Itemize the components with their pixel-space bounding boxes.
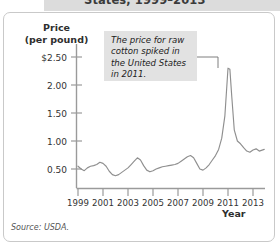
y-tick-label: 1.00 [47, 137, 67, 147]
x-tick-label: 2001 [92, 198, 114, 208]
x-axis-title: Year [222, 208, 246, 219]
y-tick-label: 0.50 [47, 165, 67, 175]
x-tick-label: 2005 [142, 198, 164, 208]
x-tick-label: 2009 [192, 198, 214, 208]
x-tick-label: 2011 [217, 198, 239, 208]
y-tick-label: 2.00 [47, 81, 67, 91]
chart-figure: States, 1999–2013 Price (per pound) $2.5… [0, 0, 280, 245]
x-tick-label: 1999 [67, 198, 89, 208]
annotation-leader-line [197, 57, 218, 68]
data-series-line [78, 68, 264, 176]
x-tick-label: 2013 [242, 198, 264, 208]
x-tick-label: 2007 [167, 198, 189, 208]
source-note: Source: USDA. [11, 223, 69, 232]
y-tick-label: $2.50 [41, 53, 67, 63]
annotation-text: The price for raw cotton spiked in the U… [111, 35, 191, 80]
x-tick-label: 2003 [117, 198, 139, 208]
annotation-callout: The price for raw cotton spiked in the U… [104, 31, 197, 81]
x-axis-tick-labels: 1999 2001 2003 2005 2007 2009 2011 2013 [67, 198, 264, 208]
y-axis-tick-labels: $2.50 2.00 1.50 1.00 0.50 [41, 53, 67, 175]
y-tick-label: 1.50 [47, 109, 67, 119]
